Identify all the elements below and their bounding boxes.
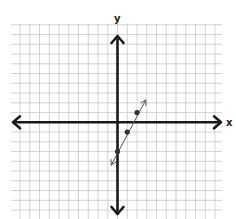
y-axis-label: y — [114, 13, 121, 24]
data-point — [125, 129, 130, 134]
x-axis-label: x — [226, 117, 233, 128]
axes — [13, 36, 221, 214]
coordinate-plane: x y — [0, 0, 236, 219]
data-point — [134, 110, 139, 115]
data-point — [115, 149, 120, 154]
